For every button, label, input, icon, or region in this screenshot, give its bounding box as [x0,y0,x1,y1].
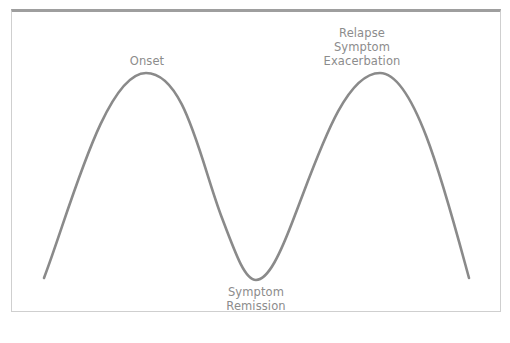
onset-label: Onset [130,54,164,68]
onset-label-line: Onset [130,54,164,68]
relapse-label-line-3: Exacerbation [324,54,401,68]
relapse-label: Relapse Symptom Exacerbation [324,26,401,68]
relapse-label-line-1: Relapse [324,26,401,40]
remission-label-line-2: Remission [226,299,285,313]
remission-label-line-1: Symptom [226,285,285,299]
relapse-label-line-2: Symptom [324,40,401,54]
remission-label: Symptom Remission [226,285,285,313]
curve-path [44,73,469,280]
